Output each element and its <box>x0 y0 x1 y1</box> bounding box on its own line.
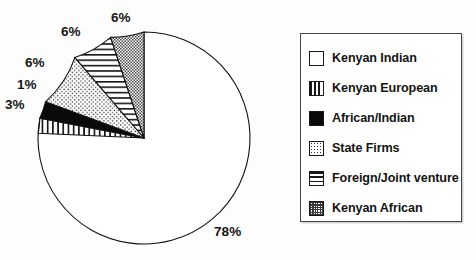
legend-label-african-indian: African/Indian <box>332 111 415 125</box>
legend-label-state-firms: State Firms <box>332 141 400 155</box>
legend-swatch-horizontal-lines-icon <box>309 171 324 186</box>
pie-chart-svg <box>0 0 290 260</box>
legend-swatch-blank-icon <box>309 51 324 66</box>
legend-item-foreign-joint-venture: Foreign/Joint venture <box>309 163 457 193</box>
legend-item-kenyan-european: Kenyan European <box>309 73 457 103</box>
legend-swatch-solid-black-icon <box>309 111 324 126</box>
pie-label-kenyan-african: 6% <box>111 10 131 25</box>
legend-item-state-firms: State Firms <box>309 133 457 163</box>
legend-swatch-vertical-lines-icon <box>309 81 324 96</box>
pie-label-kenyan-european: 3% <box>5 97 25 112</box>
legend-item-kenyan-african: Kenyan African <box>309 193 457 223</box>
legend: Kenyan Indian Kenyan European African/In… <box>300 33 462 222</box>
pie-label-kenyan-indian: 78% <box>214 224 241 239</box>
legend-swatch-checker-icon <box>309 201 324 216</box>
legend-label-kenyan-african: Kenyan African <box>332 201 423 215</box>
pie-label-state-firms: 6% <box>25 55 45 70</box>
legend-label-kenyan-indian: Kenyan Indian <box>332 51 417 65</box>
pie-label-african-indian: 1% <box>17 77 37 92</box>
legend-item-african-indian: African/Indian <box>309 103 457 133</box>
legend-list: Kenyan Indian Kenyan European African/In… <box>309 43 457 223</box>
legend-item-kenyan-indian: Kenyan Indian <box>309 43 457 73</box>
pie-chart-area: 6% 6% 6% 1% 3% 78% <box>0 0 290 260</box>
pie-label-foreign-joint-venture: 6% <box>61 24 81 39</box>
legend-swatch-dots-icon <box>309 141 324 156</box>
legend-label-foreign-joint-venture: Foreign/Joint venture <box>332 171 459 185</box>
legend-label-kenyan-european: Kenyan European <box>332 81 438 95</box>
pie-chart-figure: 6% 6% 6% 1% 3% 78% Kenyan Indian Kenyan … <box>0 0 476 260</box>
